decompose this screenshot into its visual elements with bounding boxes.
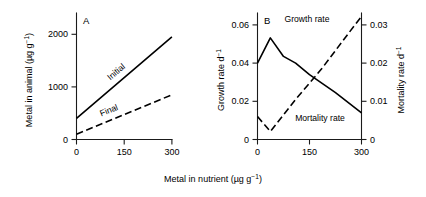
panel-b-left-axis-title: Growth rate d−1 [215, 49, 226, 111]
panel-a-curve-label-final: Final [98, 102, 119, 118]
panel-a-xtick-label-300: 300 [164, 147, 179, 157]
panel-b-right-ytick-label-0: 0 [370, 135, 375, 145]
panel-a-xtick-label-150: 150 [117, 147, 132, 157]
panel-b-xtick-label-0: 0 [255, 147, 260, 157]
panel-b-right-ytick-label-002: 0.02 [370, 58, 388, 68]
panel-a-curve-final [77, 95, 172, 134]
panel-a-ytick-label-0: 0 [63, 135, 68, 145]
panel-b-xtick-label-150: 150 [302, 147, 317, 157]
panel-b-left-ytick-label-0: 0 [244, 135, 249, 145]
panel-b-right-ytick-label-003: 0.03 [370, 20, 388, 30]
panel-b-left-ytick-label-006: 0.06 [231, 20, 249, 30]
panel-a-ytick-label-2000: 2000 [48, 29, 68, 39]
panel-b-letter: B [264, 15, 270, 26]
panel-a-curve-initial [77, 37, 172, 119]
panel-b-xtick-label-300: 300 [354, 147, 369, 157]
panel-b-curve-growth [258, 38, 362, 113]
panel-a-ytick-label-1000: 1000 [48, 82, 68, 92]
panel-b-left-ytick-label-004: 0.04 [231, 58, 249, 68]
panel-b-right-axis-title: Mortality rate d−1 [395, 46, 406, 113]
panel-a-xtick-label-0: 0 [74, 147, 79, 157]
panel-b: 0 0.02 0.04 0.06 0 0.01 0.02 0.03 0 150 … [215, 13, 406, 157]
panel-a-letter: A [83, 15, 90, 26]
shared-x-axis-title: Metal in nutrient (µg g−1) [164, 173, 262, 184]
panel-b-left-ytick-label-002: 0.02 [231, 96, 249, 106]
figure-svg: 0 1000 2000 0 150 300 Metal in animal (µ… [0, 0, 426, 197]
panel-a: 0 1000 2000 0 150 300 Metal in animal (µ… [23, 13, 180, 157]
panel-a-y-axis-title: Metal in animal (µg g−1) [23, 33, 34, 127]
panel-b-curve-label-growth: Growth rate [285, 14, 330, 24]
panel-b-right-ytick-label-001: 0.01 [370, 96, 388, 106]
figure-container: 0 1000 2000 0 150 300 Metal in animal (µ… [0, 0, 426, 197]
panel-b-curve-label-mortality: Mortality rate [295, 113, 345, 123]
